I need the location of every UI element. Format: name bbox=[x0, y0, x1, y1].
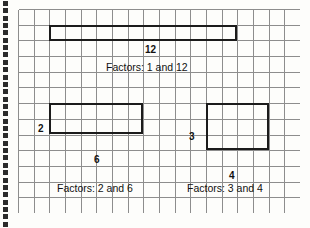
punch-hole-icon bbox=[3, 82, 8, 87]
punch-hole-icon bbox=[3, 30, 8, 35]
punch-hole-icon bbox=[3, 52, 8, 57]
punch-hole-icon bbox=[3, 141, 8, 146]
array-1x12-col-label: 12 bbox=[145, 45, 156, 55]
punch-hole-icon bbox=[3, 155, 8, 160]
punch-hole-icon bbox=[3, 192, 8, 197]
punch-hole-icon bbox=[3, 16, 8, 21]
punch-hole-icon bbox=[3, 104, 8, 109]
array-rect-3x4 bbox=[206, 103, 269, 150]
array-3x4-col-label: 4 bbox=[229, 171, 235, 181]
punch-hole-icon bbox=[3, 23, 8, 28]
array-2x6-col-label: 6 bbox=[94, 155, 100, 165]
punch-hole-icon bbox=[3, 133, 8, 138]
punch-hole-icon bbox=[3, 148, 8, 153]
punch-hole-icon bbox=[3, 111, 8, 116]
punch-hole-icon bbox=[3, 8, 8, 13]
array-3x4-row-label: 3 bbox=[189, 132, 195, 142]
array-2x6-row-label: 2 bbox=[38, 124, 44, 134]
array-2x6-factors-label: Factors: 2 and 6 bbox=[57, 183, 133, 194]
punch-hole-icon bbox=[3, 170, 8, 175]
punch-hole-icon bbox=[3, 75, 8, 80]
worksheet-page: 12 2 6 3 4 Factors: 1 and 12 Factors: 2 … bbox=[0, 0, 310, 228]
punch-hole-icon bbox=[3, 222, 8, 227]
punch-hole-icon bbox=[3, 200, 8, 205]
punch-hole-icon bbox=[3, 126, 8, 131]
punch-hole-icon bbox=[3, 185, 8, 190]
punch-hole-icon bbox=[3, 38, 8, 43]
punch-hole-icon bbox=[3, 178, 8, 183]
array-3x4-factors-label: Factors: 3 and 4 bbox=[187, 183, 263, 194]
punch-hole-icon bbox=[3, 67, 8, 72]
array-rect-1x12 bbox=[49, 25, 237, 41]
spiral-punch-holes bbox=[0, 0, 14, 228]
punch-hole-icon bbox=[3, 119, 8, 124]
punch-hole-icon bbox=[3, 89, 8, 94]
punch-hole-icon bbox=[3, 214, 8, 219]
punch-hole-icon bbox=[3, 207, 8, 212]
punch-hole-icon bbox=[3, 45, 8, 50]
punch-hole-icon bbox=[3, 60, 8, 65]
punch-hole-icon bbox=[3, 163, 8, 168]
punch-hole-icon bbox=[3, 1, 8, 6]
array-rect-2x6 bbox=[49, 103, 143, 134]
punch-hole-icon bbox=[3, 97, 8, 102]
array-1x12-factors-label: Factors: 1 and 12 bbox=[106, 62, 188, 73]
